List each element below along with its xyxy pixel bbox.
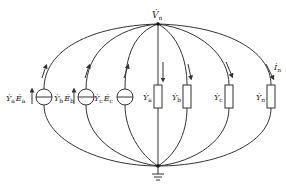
ground-icon — [152, 166, 164, 180]
admittance-branch-a — [154, 24, 163, 166]
admittance-a-label: Ẏa — [143, 93, 152, 103]
admittance-c-icon — [225, 85, 233, 108]
top-node — [156, 22, 160, 26]
neutral-current-label: İn — [273, 63, 281, 73]
circuit-diagram: V̇n ẎaĖa ẎbĖb ẎcĖc Ẏa Ẏb Ẏc Ẏn İn — [0, 0, 286, 188]
admittance-n-label: Ẏn — [256, 93, 265, 103]
source-c-label: ẎcĖc — [94, 94, 114, 104]
admittance-b-label: Ẏb — [172, 93, 181, 103]
source-b-label: ẎbĖb — [54, 94, 74, 104]
admittance-c-label: Ẏc — [214, 93, 223, 103]
admittance-branch-c — [158, 24, 233, 166]
admittance-n-icon — [267, 85, 275, 108]
admittance-a-icon — [154, 85, 162, 108]
top-node-label: V̇n — [152, 9, 163, 21]
source-a-label: ẎaĖa — [6, 94, 26, 104]
source-branch-c — [117, 24, 158, 166]
admittance-b-icon — [183, 85, 191, 108]
